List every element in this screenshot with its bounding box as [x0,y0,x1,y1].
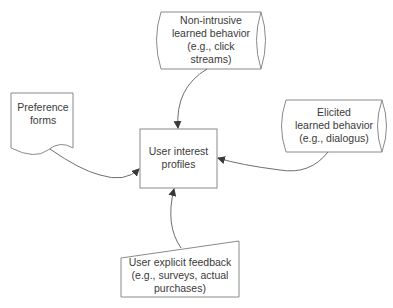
elicited-label-line-1: Elicited [284,106,384,119]
elicited-label-line-3: (e.g., dialogus) [284,132,384,145]
non-intrusive-label-line-3: (e.g., click [161,40,261,53]
preference-forms-label-line-2: forms [13,114,73,127]
edge-feedback-to-profiles [171,189,181,248]
edge-non-intrusive-to-profiles [178,69,207,128]
non-intrusive-label-line-1: Non-intrusive [161,14,261,27]
elicited-label: Elicited learned behavior (e.g., dialogu… [284,106,384,145]
explicit-feedback-label-line-1: User explicit feedback [121,256,239,269]
preference-forms-label: Preference forms [13,101,73,127]
preference-forms-label-line-1: Preference [13,101,73,114]
explicit-feedback-label-line-2: (e.g., surveys, actual [121,269,239,282]
edge-preference-forms-to-profiles [50,149,139,178]
user-interest-profiles-label-line-1: User interest [140,145,217,158]
user-interest-profiles-label-line-2: profiles [140,158,217,171]
user-interest-profiles-label: User interest profiles [140,145,217,171]
elicited-label-line-2: learned behavior [284,119,384,132]
non-intrusive-label-line-2: learned behavior [161,27,261,40]
edge-elicited-to-profiles [218,152,328,171]
explicit-feedback-label: User explicit feedback (e.g., surveys, a… [121,256,239,295]
non-intrusive-label-line-4: streams) [161,53,261,66]
non-intrusive-label: Non-intrusive learned behavior (e.g., cl… [161,14,261,66]
explicit-feedback-label-line-3: purchases) [121,282,239,295]
